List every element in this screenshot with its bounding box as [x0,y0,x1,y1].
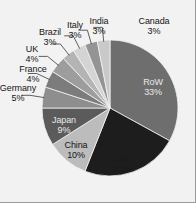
pie-label-japan: Japan 9% [44,116,84,135]
pie-label-uk: UK 4% [19,45,45,64]
pie-label-row-value: 33% [136,88,170,98]
pie-label-brazil-name: Brazil [39,27,61,37]
pie-label-china-name: China [64,140,87,150]
pie-label-germany-value: 5% [0,94,42,104]
pie-label-india: India 3% [85,17,113,36]
pie-label-france-value: 4% [12,75,54,85]
pie-label-germany: Germany 5% [0,84,42,103]
pie-label-row: RoW 33% [136,78,170,97]
pie-label-india-name: India [89,16,108,26]
pie-label-canada: Canada 3% [133,17,175,36]
pie-label-china: China 10% [56,141,96,160]
pie-label-us-name: US [116,154,128,164]
pie-label-uk-value: 4% [19,55,45,65]
pie-label-china-value: 10% [56,151,96,161]
pie-label-japan-name: Japan [52,115,76,125]
pie-label-us: US 23% [107,155,137,174]
pie-label-france: France 4% [12,65,54,84]
pie-chart-figure: RoW 33% US 23% China 10% Japan 9% German… [0,0,196,203]
pie-label-row-name: RoW [143,77,163,87]
pie-label-india-value: 3% [85,27,113,37]
pie-label-us-value: 23% [107,165,137,175]
pie-label-japan-value: 9% [44,126,84,136]
pie-label-canada-name: Canada [139,16,170,26]
pie-label-canada-value: 3% [133,27,175,37]
pie-label-france-name: France [19,64,46,74]
pie-label-italy-name: Italy [67,20,83,30]
pie-label-germany-name: Germany [0,83,36,93]
